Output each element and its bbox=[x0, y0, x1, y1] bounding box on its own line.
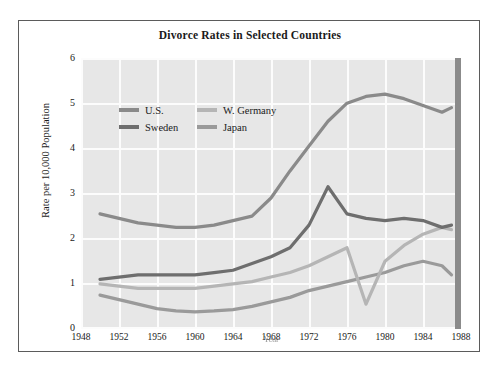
legend-swatch-japan bbox=[197, 125, 217, 129]
y-tick-label: 5 bbox=[49, 97, 75, 108]
legend-label-w-germany: W. Germany bbox=[223, 105, 276, 116]
legend-label-sweden: Sweden bbox=[145, 122, 178, 133]
screenshot-root: Divorce Rates in Selected Countries Rate… bbox=[0, 0, 501, 381]
legend-item-japan[interactable]: Japan bbox=[197, 120, 247, 134]
page-title: Divorce Rates in Selected Countries bbox=[19, 29, 481, 41]
y-tick-label: 3 bbox=[49, 187, 75, 198]
legend-swatch-us bbox=[119, 108, 139, 112]
x-axis-label: Year bbox=[81, 334, 461, 344]
series-line-sweden bbox=[100, 187, 452, 280]
legend-item-sweden[interactable]: Sweden bbox=[119, 120, 178, 134]
legend-item-w-germany[interactable]: W. Germany bbox=[197, 103, 276, 117]
y-tick-label: 4 bbox=[49, 142, 75, 153]
legend-label-japan: Japan bbox=[223, 122, 247, 133]
legend: U.S. Sweden W. Germany Japan bbox=[119, 103, 299, 137]
series-line-w-germany bbox=[100, 227, 452, 304]
legend-label-us: U.S. bbox=[145, 105, 164, 116]
plot-area bbox=[81, 58, 461, 329]
series-lines bbox=[81, 58, 461, 329]
y-axis-label: Rate per 10,000 Population bbox=[40, 61, 51, 261]
y-tick-label: 1 bbox=[49, 277, 75, 288]
plot-right-edge-bar bbox=[455, 58, 461, 329]
y-tick-label: 2 bbox=[49, 232, 75, 243]
series-line-japan bbox=[100, 261, 452, 312]
y-tick-label: 6 bbox=[49, 52, 75, 63]
legend-item-us[interactable]: U.S. bbox=[119, 103, 164, 117]
chart-figure-frame: Divorce Rates in Selected Countries Rate… bbox=[18, 20, 480, 352]
legend-swatch-w-germany bbox=[197, 108, 217, 112]
legend-swatch-sweden bbox=[119, 125, 139, 129]
